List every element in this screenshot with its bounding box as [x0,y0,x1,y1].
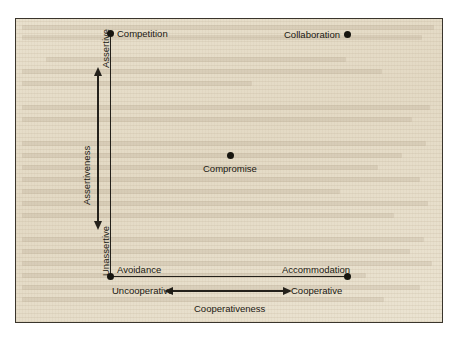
data-label-compromise: Compromise [203,164,257,174]
data-point-compromise[interactable] [227,152,234,159]
horizontal-axis-line [110,276,348,277]
bleed-through-text [46,57,346,62]
bleed-through-text [22,117,412,122]
bleed-through-text [22,189,340,194]
assertiveness-double-arrow [97,75,99,222]
bleed-through-text [22,25,434,30]
y-axis-title: Assertiveness [82,146,92,205]
y-axis-low-label: Unassertive [101,226,111,276]
data-point-competition[interactable] [107,30,114,37]
bleed-through-text [22,165,378,170]
data-point-collaboration[interactable] [344,31,351,38]
bleed-through-text [22,297,384,302]
figure-canvas: Assertive Unassertive Assertiveness Unco… [0,0,457,343]
bleed-through-text [22,261,432,266]
bleed-through-text [22,69,382,74]
bleed-through-text [22,105,430,110]
x-axis-high-label: Cooperative [291,286,342,296]
bleed-through-text [22,81,252,86]
data-label-accommodation: Accommodation [282,265,350,275]
bleed-through-text [22,249,410,254]
bleed-through-text [22,153,402,158]
data-point-avoidance[interactable] [107,273,114,280]
bleed-through-text [22,237,424,242]
x-axis-title: Cooperativeness [194,304,265,314]
data-label-competition: Competition [117,29,168,39]
bleed-through-text [22,213,394,218]
data-label-collaboration: Collaboration [284,30,340,40]
bleed-through-text [22,35,422,40]
x-axis-low-label: Uncooperative [112,286,173,296]
data-label-avoidance: Avoidance [117,265,161,275]
cooperativeness-double-arrow [172,290,284,292]
